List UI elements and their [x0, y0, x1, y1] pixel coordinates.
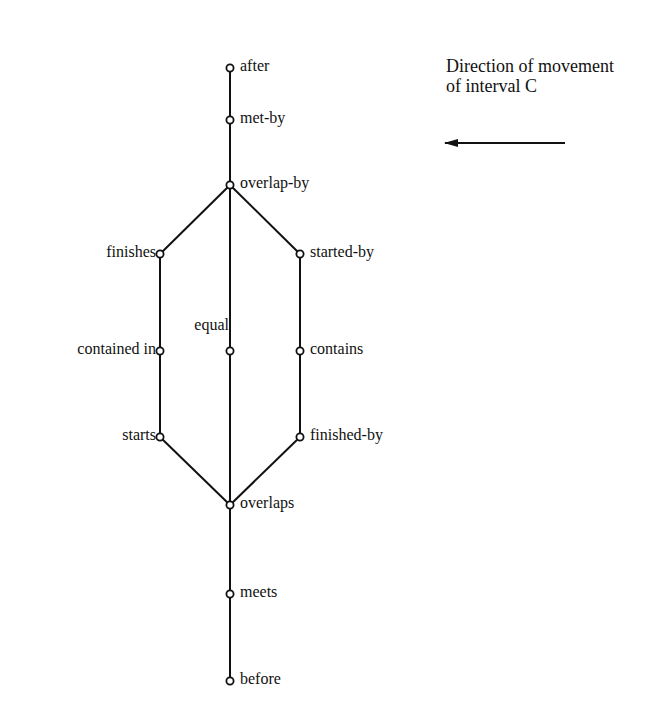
- node-finished-by: [296, 433, 303, 440]
- caption-line-2: of interval C: [446, 76, 614, 96]
- label-starts: starts: [122, 426, 156, 444]
- label-after: after: [240, 57, 269, 75]
- label-contained-in: contained in: [77, 340, 156, 358]
- node-started-by: [296, 250, 303, 257]
- label-equal: equal: [194, 316, 229, 334]
- label-before: before: [240, 670, 281, 688]
- edges: [160, 68, 300, 681]
- edge-overlap-by-finishes: [160, 185, 230, 254]
- node-contained-in: [156, 347, 163, 354]
- node-met-by: [226, 116, 233, 123]
- label-overlaps: overlaps: [240, 494, 294, 512]
- node-overlap-by: [226, 181, 233, 188]
- interval-relations-lattice: [0, 0, 649, 724]
- label-started-by: started-by: [310, 243, 374, 261]
- node-after: [226, 64, 233, 71]
- node-finishes: [156, 250, 163, 257]
- edge-overlap-by-started-by: [230, 185, 300, 254]
- label-overlap-by: overlap-by: [240, 174, 309, 192]
- node-before: [226, 677, 233, 684]
- label-contains: contains: [310, 340, 363, 358]
- label-finished-by: finished-by: [310, 426, 383, 444]
- node-meets: [226, 590, 233, 597]
- label-meets: meets: [240, 583, 277, 601]
- edge-starts-overlaps: [160, 437, 230, 505]
- label-met-by: met-by: [240, 109, 285, 127]
- label-finishes: finishes: [106, 243, 156, 261]
- node-contains: [296, 347, 303, 354]
- node-equal: [226, 347, 233, 354]
- direction-caption: Direction of movement of interval C: [446, 56, 614, 96]
- node-overlaps: [226, 501, 233, 508]
- caption-line-1: Direction of movement: [446, 56, 614, 76]
- node-starts: [156, 433, 163, 440]
